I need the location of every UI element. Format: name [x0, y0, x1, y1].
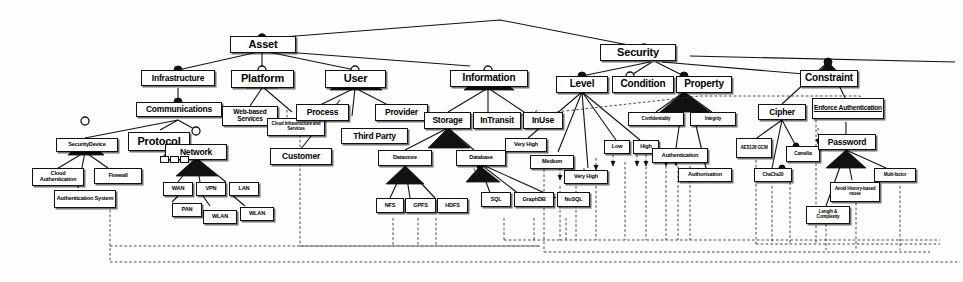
node-wlan-1[interactable]: WLAN — [203, 210, 237, 224]
node-constraint[interactable]: Constraint — [800, 70, 858, 87]
node-protocol-sub-a[interactable] — [160, 156, 169, 163]
node-nosql[interactable]: NoSQL — [557, 192, 590, 207]
node-infrastructure[interactable]: Infrastructure — [141, 70, 215, 86]
node-sql[interactable]: SQL — [481, 192, 511, 207]
node-inuse[interactable]: InUse — [523, 112, 563, 129]
node-camellia[interactable]: Camellia — [786, 146, 820, 162]
node-low[interactable]: Low — [604, 140, 630, 154]
node-provider[interactable]: Provider — [375, 104, 428, 121]
node-authentication-system[interactable]: Authentication System — [54, 190, 116, 208]
node-integrity[interactable]: Integrity — [690, 112, 736, 126]
node-enforce-authentication[interactable]: Enforce Authentication — [812, 98, 884, 119]
node-pan[interactable]: PAN — [172, 203, 202, 217]
node-database[interactable]: Database — [456, 150, 506, 166]
diagram-canvas: Asset Security Infrastructure Platform U… — [0, 0, 963, 282]
node-communications[interactable]: Communications — [136, 102, 222, 117]
node-medium[interactable]: Medium — [530, 155, 574, 169]
node-confidentiality[interactable]: Confidentiality — [628, 112, 684, 126]
node-customer[interactable]: Customer — [270, 148, 332, 165]
node-intransit[interactable]: InTransit — [473, 112, 521, 129]
node-protocol-sub-b[interactable] — [170, 156, 179, 163]
node-aes128-gcm[interactable]: AES128 GCM — [736, 138, 772, 158]
node-very-high-1[interactable]: Very High — [505, 138, 547, 152]
node-protocol-sub-c[interactable] — [180, 156, 189, 163]
node-vpn[interactable]: VPN — [196, 182, 226, 196]
node-cipher[interactable]: Cipher — [758, 104, 806, 120]
node-asset[interactable]: Asset — [230, 36, 296, 53]
node-condition[interactable]: Condition — [612, 76, 674, 93]
node-information[interactable]: Information — [450, 70, 528, 87]
node-level[interactable]: Level — [556, 76, 608, 93]
node-cloud-authentication[interactable]: Cloud Authentication — [32, 168, 84, 186]
node-hdfs[interactable]: HDFS — [437, 198, 468, 213]
node-chacha20[interactable]: ChaCha20 — [754, 168, 792, 182]
node-graphdb[interactable]: GraphDB — [514, 192, 554, 207]
node-storage[interactable]: Storage — [424, 112, 471, 129]
node-datastore[interactable]: Datastore — [378, 150, 432, 166]
node-platform[interactable]: Platform — [231, 70, 294, 88]
node-multi-factor[interactable]: Multi-factor — [874, 168, 916, 182]
node-wan[interactable]: WAN — [163, 182, 193, 196]
node-authentication[interactable]: Authentication — [652, 148, 708, 163]
node-authorisation[interactable]: Authorisation — [678, 168, 732, 182]
node-password[interactable]: Password — [818, 134, 876, 150]
node-gpfs[interactable]: GPFS — [405, 198, 436, 213]
node-security[interactable]: Security — [600, 44, 676, 61]
node-nfs[interactable]: NFS — [376, 198, 404, 213]
node-user[interactable]: User — [325, 70, 386, 88]
node-avoid-history-based-reuse[interactable]: Avoid History-based reuse — [830, 182, 880, 202]
node-third-party[interactable]: Third Party — [341, 128, 408, 144]
node-firewall[interactable]: Firewall — [94, 168, 142, 184]
node-property[interactable]: Property — [676, 76, 732, 93]
node-lan[interactable]: LAN — [229, 182, 259, 196]
node-securitydevice[interactable]: SecurityDevice — [56, 138, 118, 152]
node-wlan-2[interactable]: WLAN — [240, 207, 274, 221]
node-process[interactable]: Process — [296, 104, 349, 121]
node-very-high-2[interactable]: Very High — [564, 170, 608, 184]
node-length-complexity[interactable]: Length & Complexity — [806, 206, 850, 224]
